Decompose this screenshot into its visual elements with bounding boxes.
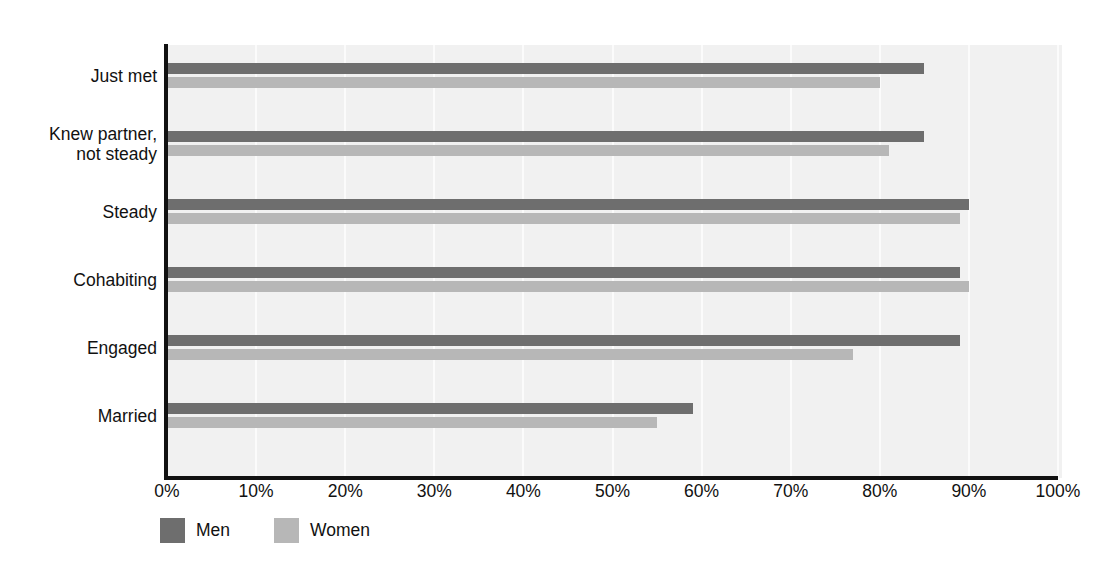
y-axis-label: Cohabiting — [2, 270, 157, 290]
y-axis-label: Married — [2, 406, 157, 426]
x-axis-tick-label: 20% — [300, 481, 390, 502]
legend-label: Women — [310, 520, 370, 541]
y-axis-line — [164, 44, 168, 480]
x-axis-line — [164, 476, 1058, 480]
x-axis-tick-label: 50% — [568, 481, 658, 502]
bar-women-5 — [167, 417, 657, 428]
legend: MenWomen — [160, 518, 370, 543]
y-axis-label: Just met — [2, 66, 157, 86]
x-axis-tick-label: 80% — [835, 481, 925, 502]
bar-men-4 — [167, 335, 960, 346]
x-axis-tick-label: 100% — [1013, 481, 1103, 502]
legend-entry-women[interactable]: Women — [274, 518, 370, 543]
x-axis-tick-label: 60% — [657, 481, 747, 502]
bar-women-0 — [167, 77, 880, 88]
x-axis-labels: 0%10%20%30%40%50%60%70%80%90%100% — [0, 481, 1117, 511]
bar-men-0 — [167, 63, 924, 74]
x-axis-tick-label: 90% — [924, 481, 1014, 502]
legend-swatch-icon — [160, 518, 185, 543]
bar-men-3 — [167, 267, 960, 278]
x-axis-tick-label: 0% — [122, 481, 212, 502]
y-axis-label: Engaged — [2, 338, 157, 358]
x-axis-tick-label: 30% — [389, 481, 479, 502]
legend-label: Men — [196, 520, 230, 541]
bar-men-1 — [167, 131, 924, 142]
x-axis-tick-label: 10% — [211, 481, 301, 502]
bar-chart: Just metKnew partner, not steadySteadyCo… — [0, 0, 1117, 567]
bar-men-5 — [167, 403, 693, 414]
bar-men-2 — [167, 199, 969, 210]
bar-women-3 — [167, 281, 969, 292]
x-axis-tick-label: 40% — [478, 481, 568, 502]
legend-entry-men[interactable]: Men — [160, 518, 230, 543]
x-axis-tick-label: 70% — [746, 481, 836, 502]
y-axis-label: Steady — [2, 202, 157, 222]
bar-women-1 — [167, 145, 889, 156]
bar-women-2 — [167, 213, 960, 224]
legend-swatch-icon — [274, 518, 299, 543]
bar-women-4 — [167, 349, 853, 360]
y-axis-label: Knew partner, not steady — [2, 124, 157, 164]
